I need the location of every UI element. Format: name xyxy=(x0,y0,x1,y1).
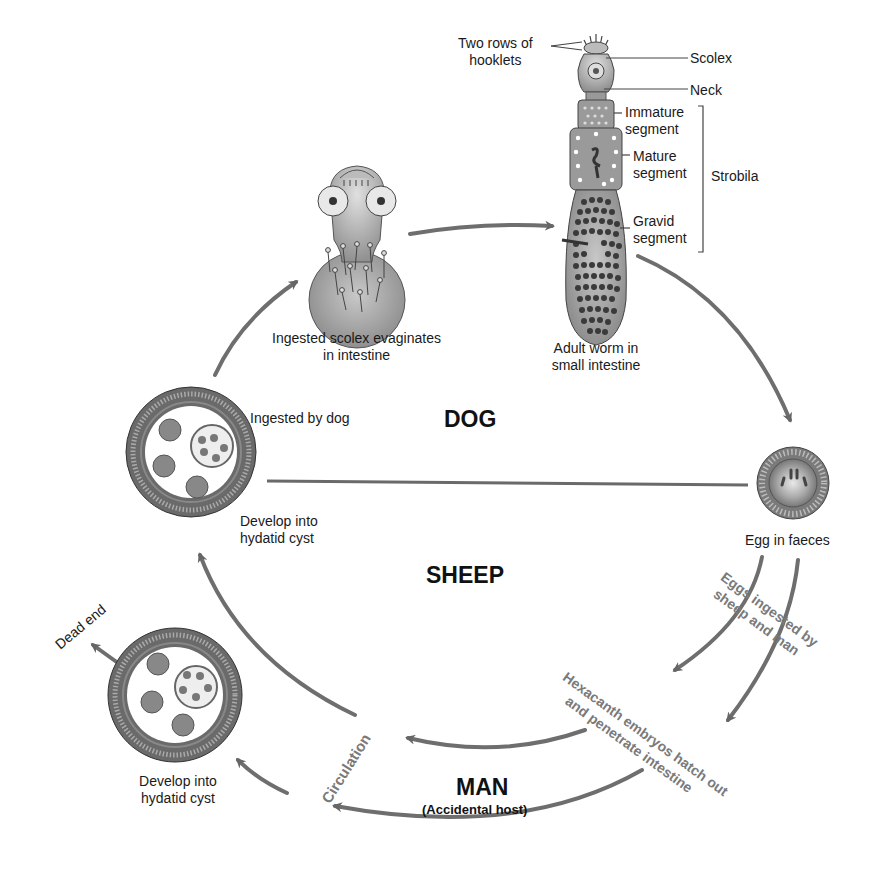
label-immature-segment: Immature segment xyxy=(625,104,684,138)
egg-illustration xyxy=(757,447,829,519)
hydatid-cyst-man-illustration xyxy=(108,628,242,762)
host-label-man: MAN xyxy=(456,774,508,801)
label-scolex-evaginates-line1: Ingested scolex evaginates xyxy=(254,330,459,347)
label-immature-line1: Immature xyxy=(625,104,684,121)
label-mature-line1: Mature xyxy=(633,148,687,165)
label-ingested-by-dog: Ingested by dog xyxy=(250,410,350,427)
host-label-sheep: SHEEP xyxy=(426,562,504,589)
label-scolex: Scolex xyxy=(690,50,732,67)
label-scolex-evaginates-line2: in intestine xyxy=(254,347,459,364)
label-gravid-line2: segment xyxy=(633,230,687,247)
label-develop-cyst-man-line2: hydatid cyst xyxy=(130,790,226,807)
label-adult-worm-line1: Adult worm in xyxy=(540,340,652,357)
label-adult-worm-line2: small intestine xyxy=(540,357,652,374)
label-strobila: Strobila xyxy=(711,168,758,185)
diagram-graphics xyxy=(0,0,880,874)
label-neck: Neck xyxy=(690,82,722,99)
label-hooklets-line2: hooklets xyxy=(458,52,533,69)
evaginated-scolex-illustration xyxy=(309,166,405,348)
label-adult-worm-caption: Adult worm in small intestine xyxy=(540,340,652,374)
label-immature-line2: segment xyxy=(625,121,684,138)
label-develop-cyst-sheep: Develop into hydatid cyst xyxy=(240,513,318,547)
label-mature-segment: Mature segment xyxy=(633,148,687,182)
host-divider-line xyxy=(267,481,748,485)
label-egg-in-faeces: Egg in faeces xyxy=(745,532,830,549)
host-label-man-note: (Accidental host) xyxy=(422,802,527,817)
host-label-dog: DOG xyxy=(444,406,496,433)
label-develop-cyst-man-line1: Develop into xyxy=(130,773,226,790)
adult-worm-illustration xyxy=(551,34,703,345)
label-hooklets: Two rows of hooklets xyxy=(458,35,533,69)
hydatid-cyst-sheep-illustration xyxy=(126,387,256,517)
label-scolex-evaginates: Ingested scolex evaginates in intestine xyxy=(254,330,459,364)
label-develop-cyst-man: Develop into hydatid cyst xyxy=(130,773,226,807)
label-develop-cyst-sheep-line1: Develop into xyxy=(240,513,318,530)
label-develop-cyst-sheep-line2: hydatid cyst xyxy=(240,530,318,547)
label-hooklets-line1: Two rows of xyxy=(458,35,533,52)
label-mature-line2: segment xyxy=(633,165,687,182)
label-gravid-line1: Gravid xyxy=(633,213,687,230)
label-gravid-segment: Gravid segment xyxy=(633,213,687,247)
echinococcus-life-cycle-diagram: Two rows of hooklets Scolex Neck Immatur… xyxy=(0,0,880,874)
